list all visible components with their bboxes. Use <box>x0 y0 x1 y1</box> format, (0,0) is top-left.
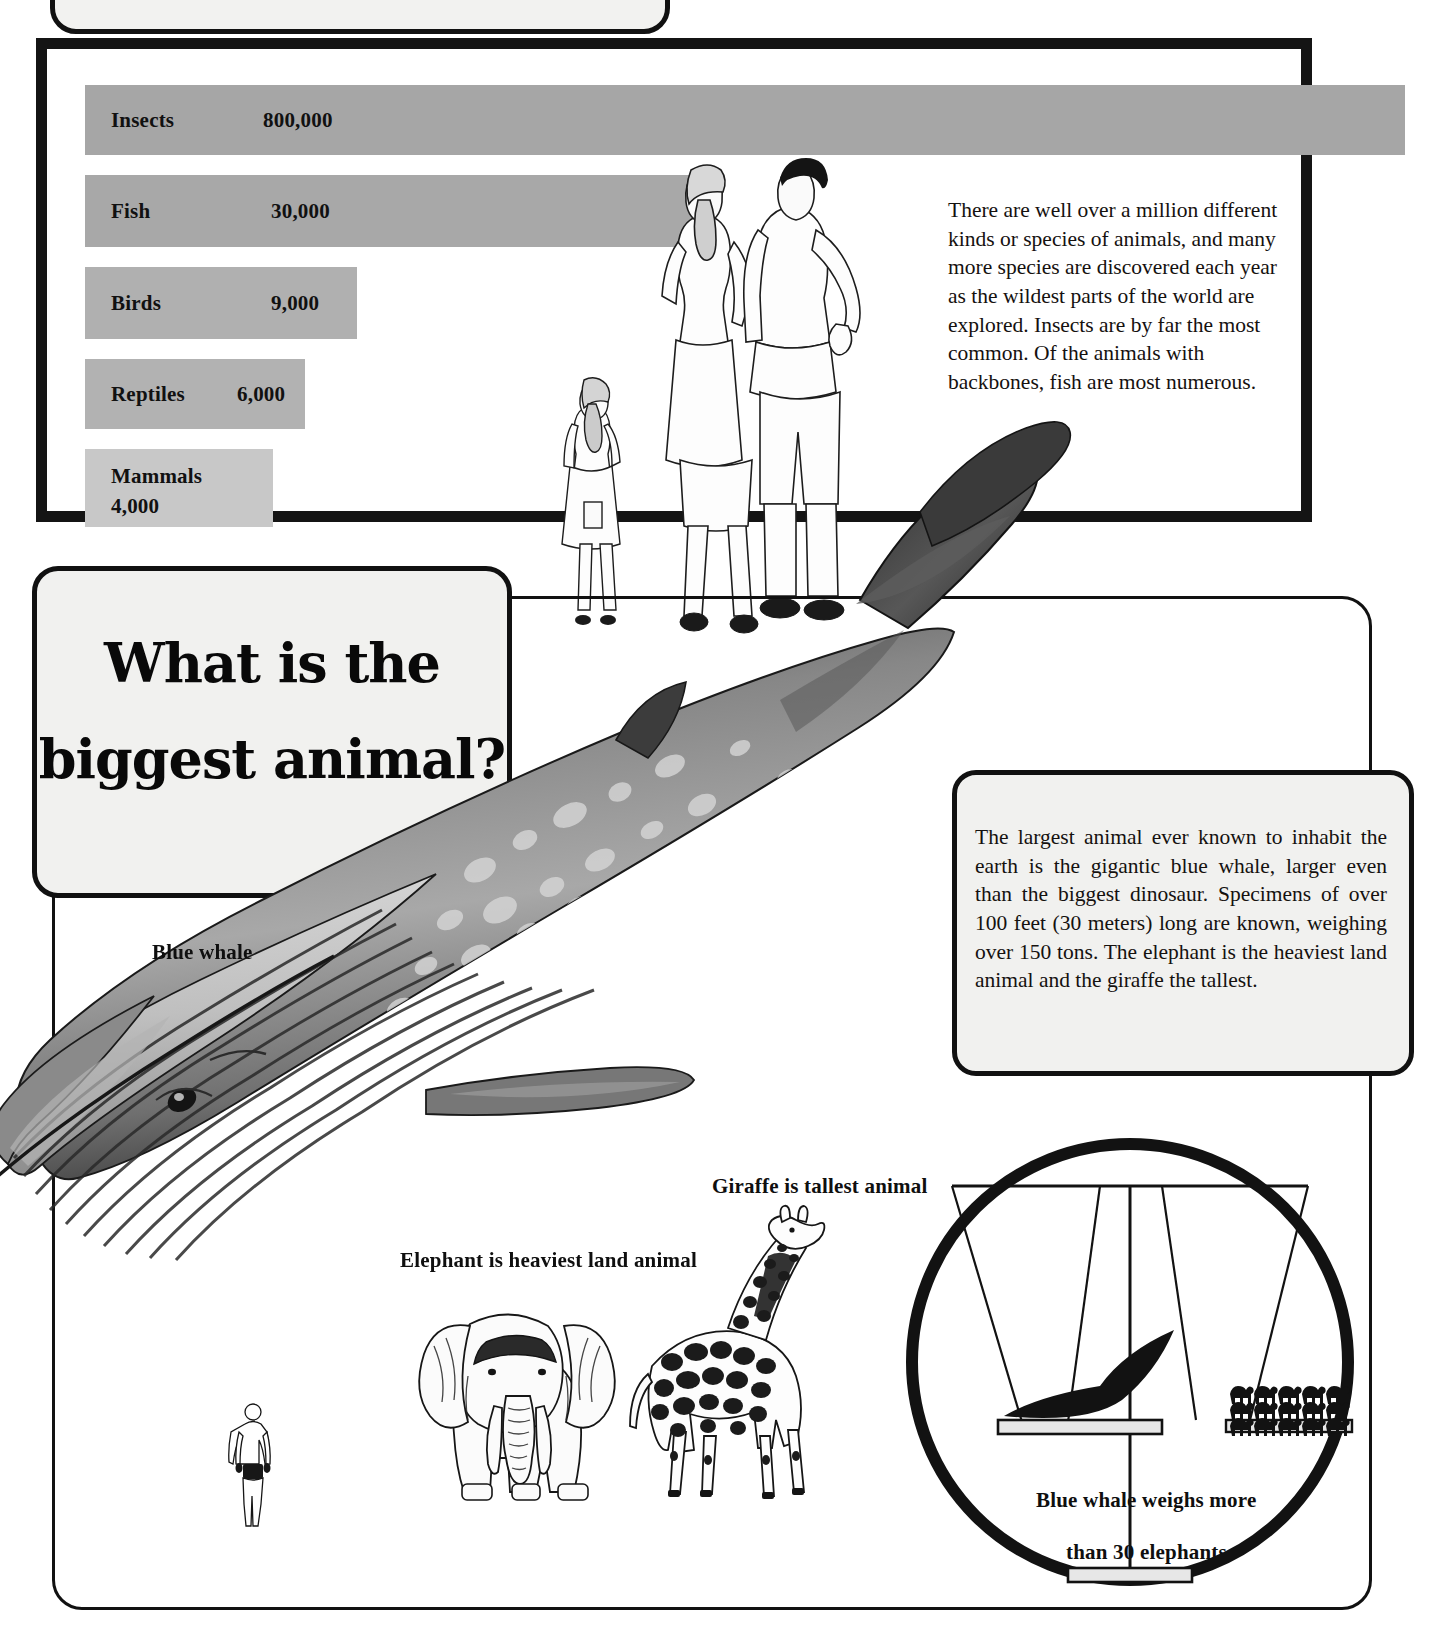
elephant-illustration <box>408 1280 628 1510</box>
giraffe-illustration <box>616 1216 856 1526</box>
scale-pan-left <box>998 1420 1162 1434</box>
bar-value-fish: 30,000 <box>271 199 330 224</box>
intro-paragraph: There are well over a million different … <box>948 196 1300 397</box>
caption-giraffe: Giraffe is tallest animal <box>712 1174 928 1199</box>
bar-label-birds: Birds <box>111 291 161 316</box>
bar-label-fish: Fish <box>111 199 150 224</box>
scale-base <box>1068 1568 1192 1582</box>
bar-value-insects: 800,000 <box>263 108 333 133</box>
bar-birds: Birds 9,000 <box>85 267 357 339</box>
whale-silhouette <box>1004 1330 1174 1418</box>
description-panel: The largest animal ever known to inhabit… <box>952 770 1414 1076</box>
bar-insects: Insects 800,000 <box>85 85 1405 155</box>
bar-label-insects: Insects <box>111 108 174 133</box>
human-scale-figure <box>218 1400 288 1530</box>
top-clipped-panel <box>50 0 670 34</box>
caption-blue-whale: Blue whale <box>152 940 253 965</box>
infographic-page: Insects 800,000 Fish 30,000 Birds 9,000 … <box>0 0 1436 1640</box>
elephant-herd-silhouettes <box>1230 1386 1350 1436</box>
balance-scale-illustration <box>900 1090 1360 1640</box>
description-paragraph: The largest animal ever known to inhabit… <box>975 823 1387 995</box>
bar-value-birds: 9,000 <box>271 291 319 316</box>
